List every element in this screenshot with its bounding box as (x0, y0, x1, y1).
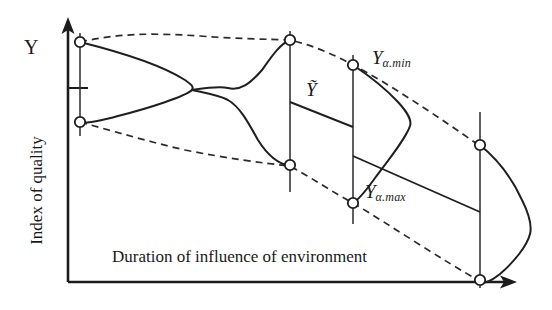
y-alpha-max-subscript: α.max (376, 190, 406, 204)
station-3-upper-marker (348, 60, 358, 70)
envelope-y-alpha-min (80, 34, 480, 146)
y-symbol-label: Y (24, 37, 38, 57)
station-1-lower-marker (75, 117, 85, 127)
station-2-distribution-curve-lower (192, 90, 290, 166)
figure-root: Y Ỹ Yα.min Yα.max Duration of influence … (0, 0, 552, 310)
station-2-upper-marker (285, 35, 295, 45)
mean-trend-upper (290, 102, 353, 127)
y-axis-title: Index of quality (28, 126, 45, 256)
y-alpha-max-base: Y (365, 181, 376, 202)
station-3-lower-marker (348, 198, 358, 208)
station-1-group (75, 33, 193, 136)
station-2-lower-marker (285, 160, 295, 170)
y-alpha-min-label: Yα.min (372, 48, 411, 69)
station-2-group (192, 31, 295, 192)
x-axis-title: Duration of influence of environment (112, 248, 367, 265)
station-1-upper-marker (75, 37, 85, 47)
station-4-group (475, 112, 531, 288)
station-4-upper-marker (475, 140, 485, 150)
station-4-distribution-curve (480, 145, 531, 283)
station-4-lower-marker (475, 275, 485, 285)
y-alpha-max-label: Yα.max (365, 182, 406, 203)
y-alpha-min-base: Y (372, 47, 383, 68)
y-tilde-symbol-label: Ỹ (306, 80, 317, 99)
station-1-distribution-curve (80, 42, 193, 123)
station-2-distribution-curve (192, 40, 290, 90)
y-alpha-min-subscript: α.min (383, 56, 411, 70)
